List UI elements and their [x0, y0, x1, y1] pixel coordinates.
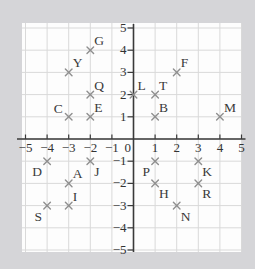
y-tick-label: 1: [120, 109, 127, 124]
point-label: M: [224, 100, 236, 115]
x-tick-label: −5: [19, 140, 33, 155]
point-label: R: [202, 186, 211, 201]
point-label: J: [94, 164, 99, 179]
point-label: B: [159, 100, 168, 115]
y-tick-label: 3: [120, 64, 127, 79]
point-label: D: [32, 164, 42, 179]
point-label: K: [202, 164, 212, 179]
y-tick-label: −3: [113, 198, 127, 213]
x-tick-label: 2: [173, 140, 180, 155]
coordinate-plane-figure: −5−4−3−2−112345−5−4−3−2−1123450GYFQLTCEB…: [0, 0, 255, 269]
y-tick-label: −5: [113, 242, 127, 257]
y-tick-label: 5: [120, 20, 127, 35]
point-label: F: [181, 55, 189, 70]
x-tick-label: −2: [83, 140, 97, 155]
x-tick-label: −3: [62, 140, 76, 155]
point-label: L: [138, 78, 146, 93]
point-label: E: [94, 100, 102, 115]
point-label: A: [73, 166, 83, 181]
point-label: Y: [73, 55, 83, 70]
point-label: H: [159, 186, 169, 201]
x-tick-label: 3: [195, 140, 202, 155]
x-tick-label: 4: [217, 140, 224, 155]
point-label: P: [143, 164, 151, 179]
x-tick-label: 1: [152, 140, 159, 155]
y-tick-label: 2: [120, 87, 127, 102]
point-label: C: [54, 101, 63, 116]
y-tick-label: 4: [120, 42, 127, 57]
plot-area: [22, 23, 241, 252]
point-label: S: [35, 209, 43, 224]
y-tick-label: −1: [113, 153, 127, 168]
point-label: N: [181, 209, 191, 224]
y-tick-label: −4: [113, 220, 127, 235]
point-label: G: [94, 33, 104, 48]
point-label: I: [73, 189, 78, 204]
point-label: Q: [94, 78, 104, 93]
x-tick-label: −4: [40, 140, 54, 155]
x-tick-label: 5: [238, 140, 245, 155]
point-label: T: [159, 78, 168, 93]
origin-label: 0: [125, 140, 132, 155]
y-tick-label: −2: [113, 175, 127, 190]
scatter-plot-svg: −5−4−3−2−112345−5−4−3−2−1123450GYFQLTCEB…: [0, 0, 255, 269]
